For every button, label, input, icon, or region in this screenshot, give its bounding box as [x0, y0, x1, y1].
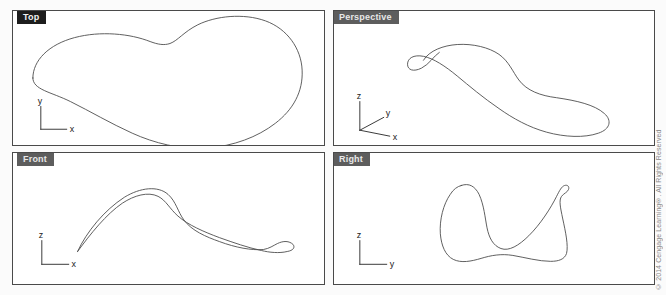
curve-right-view	[440, 185, 569, 262]
cad-four-viewport-window: Top y x Perspective z y	[0, 0, 666, 295]
viewport-title-right[interactable]: Right	[334, 153, 370, 166]
viewport-canvas-front[interactable]: z x	[13, 153, 324, 284]
curve-perspective-view	[408, 44, 610, 136]
viewport-perspective[interactable]: Perspective z y x	[333, 10, 655, 146]
axis-label-x: x	[393, 132, 398, 142]
axis-label-y: y	[38, 96, 43, 106]
viewport-canvas-right[interactable]: z y	[334, 153, 654, 284]
axis-gnomon-perspective: z y x	[357, 91, 398, 142]
viewport-title-perspective[interactable]: Perspective	[334, 11, 399, 24]
viewport-canvas-top[interactable]: y x	[13, 11, 324, 145]
viewport-front[interactable]: Front z x	[12, 152, 325, 285]
axis-label-z: z	[39, 230, 43, 240]
viewport-right[interactable]: Right z y	[333, 152, 655, 285]
viewport-title-top[interactable]: Top	[17, 11, 46, 24]
viewport-canvas-perspective[interactable]: z y x	[334, 11, 654, 145]
axis-label-z: z	[357, 91, 361, 101]
copyright-notice: © 2014 Cengage Learning®. All Rights Res…	[653, 120, 665, 290]
axis-label-y: y	[390, 259, 395, 269]
axis-gnomon-right: z y	[357, 230, 395, 270]
axis-label-y: y	[386, 108, 391, 118]
axis-gnomon-front: z x	[39, 230, 77, 270]
axis-label-x: x	[72, 259, 77, 269]
axis-gnomon-top: y x	[38, 96, 75, 135]
viewport-top[interactable]: Top y x	[12, 10, 325, 146]
axis-label-z: z	[357, 230, 361, 240]
viewport-title-front[interactable]: Front	[17, 153, 54, 166]
curve-front-view	[78, 189, 294, 253]
axis-label-x: x	[70, 124, 75, 134]
